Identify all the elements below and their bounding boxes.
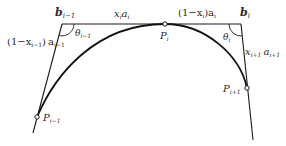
angle-arc-theta-cur [229, 24, 242, 36]
point-p-cur [163, 22, 167, 26]
label-top-right-segment: (1−xi)ai [178, 7, 216, 19]
label-right-segment: xi+1 ai+1 [245, 46, 280, 58]
label-p-next: Pi+1 [222, 83, 241, 95]
point-p-next [245, 86, 249, 90]
bezier-spline-diagram: bi−1 bi xiai (1−xi)ai (1−xi−1) ai−1 xi+1… [0, 0, 286, 146]
label-b-cur: bi [240, 6, 250, 20]
point-p-prev [35, 115, 39, 119]
label-top-left-segment: xiai [114, 8, 130, 20]
label-b-prev: bi−1 [55, 6, 75, 20]
label-left-segment: (1−xi−1) ai−1 [7, 36, 65, 48]
label-theta-prev: θi−1 [75, 28, 91, 39]
label-p-cur: Pi [159, 30, 169, 42]
right-tangent-line [241, 24, 253, 140]
label-theta-cur: θi [223, 32, 230, 43]
label-p-prev: Pi−1 [42, 112, 61, 124]
spline-curve [37, 24, 247, 117]
